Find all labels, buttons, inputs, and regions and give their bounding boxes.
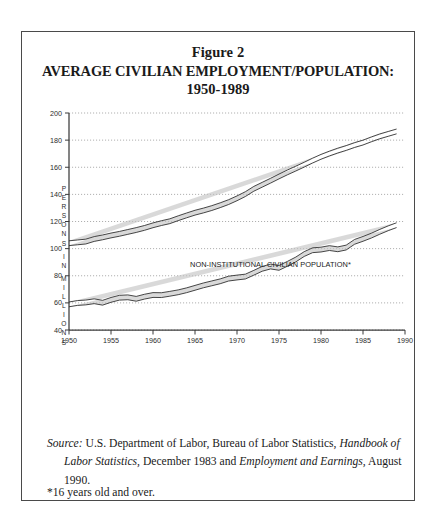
source-italic-2: Employment and Earnings, <box>239 455 366 468</box>
y-tick-labels: 406080100120140160180200 <box>50 109 62 335</box>
y-tick-label-120: 120 <box>50 217 62 226</box>
x-tick-label-1990: 1990 <box>397 336 413 345</box>
source-note: Source: U.S. Department of Labor, Bureau… <box>47 435 407 490</box>
x-tick-label-1970: 1970 <box>229 336 245 345</box>
plot-area: 406080100120140160180200 195019551960196… <box>22 108 414 348</box>
source-label: Source: <box>47 437 83 450</box>
x-tick-labels: 195019551960196519701975198019851990 <box>61 336 413 345</box>
data-series-group <box>69 129 397 307</box>
x-tick-label-1950: 1950 <box>61 336 77 345</box>
series-annotations: NON-INSTITUTIONAL CIVILIAN POPULATION*CI… <box>190 260 351 348</box>
x-tick-label-1975: 1975 <box>271 336 287 345</box>
figure-title-years: 1950-1989 <box>22 80 414 99</box>
y-tick-label-100: 100 <box>50 244 62 253</box>
x-tick-label-1960: 1960 <box>145 336 161 345</box>
y-tick-label-200: 200 <box>50 109 62 118</box>
x-tick-label-1980: 1980 <box>313 336 329 345</box>
y-tick-label-160: 160 <box>50 163 62 172</box>
series-band-fill-0 <box>69 129 397 246</box>
chart-svg: 406080100120140160180200 195019551960196… <box>22 108 414 348</box>
figure-title-main: AVERAGE CIVILIAN EMPLOYMENT/POPULATION: <box>22 62 414 81</box>
figure-number-label: Figure 2 <box>22 43 414 62</box>
y-tick-label-140: 140 <box>50 190 62 199</box>
x-tick-label-1985: 1985 <box>355 336 371 345</box>
figure-title-block: Figure 2 AVERAGE CIVILIAN EMPLOYMENT/POP… <box>22 32 414 99</box>
x-tick-label-1955: 1955 <box>103 336 119 345</box>
y-tick-label-80: 80 <box>54 271 62 280</box>
x-tick-label-1965: 1965 <box>187 336 203 345</box>
figure-container: Figure 2 AVERAGE CIVILIAN EMPLOYMENT/POP… <box>21 31 415 501</box>
source-text-2: December 1983 and <box>140 455 239 468</box>
y-tick-label-40: 40 <box>54 326 62 335</box>
y-tick-label-60: 60 <box>54 298 62 307</box>
series-annotation-0: NON-INSTITUTIONAL CIVILIAN POPULATION* <box>190 260 351 269</box>
source-text-1: U.S. Department of Labor, Bureau of Labo… <box>83 437 340 450</box>
footnote: *16 years old and over. <box>47 486 387 499</box>
y-tick-label-180: 180 <box>50 136 62 145</box>
